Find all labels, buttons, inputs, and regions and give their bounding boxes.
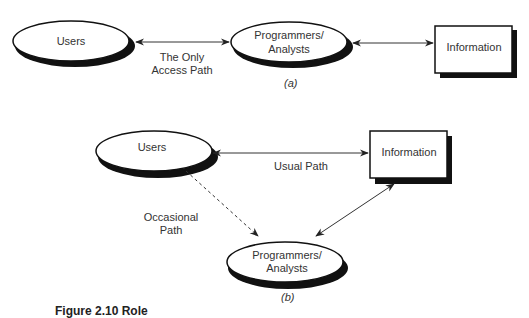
programmers-label-a-1: Programmers/ — [249, 29, 329, 42]
information-label-b: Information — [371, 146, 447, 159]
edge-label-a-1: The Only — [140, 51, 224, 64]
users-label-a: Users — [46, 35, 96, 48]
caption-b: (b) — [281, 291, 294, 303]
information-label-a: Information — [436, 41, 512, 54]
users-label-b: Users — [127, 141, 177, 154]
programmers-label-b-1: Programmers/ — [247, 249, 327, 262]
figure-caption: Figure 2.10 Role — [55, 304, 148, 318]
occasional-label-2: Path — [136, 224, 206, 237]
usual-path-label: Usual Path — [266, 160, 336, 173]
occasional-label-1: Occasional — [136, 211, 206, 224]
programmers-label-b-2: Analysts — [247, 262, 327, 275]
edge-label-a-2: Access Path — [140, 64, 224, 77]
programmers-label-a-2: Analysts — [249, 43, 329, 56]
programmers-node-a — [231, 22, 347, 62]
caption-a: (a) — [284, 77, 297, 89]
